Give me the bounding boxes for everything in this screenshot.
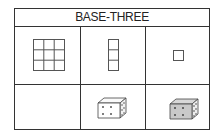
die-gray-icon [169, 98, 199, 120]
table-title: BASE-THREE [15, 9, 209, 27]
column-3-squares-icon [108, 39, 119, 71]
base-three-table: BASE-THREE [14, 8, 210, 130]
square-3x3-grid-icon [33, 39, 65, 71]
single-square-icon [173, 50, 184, 61]
die-white-icon [97, 97, 127, 119]
column-divider [145, 26, 146, 129]
column-divider [80, 26, 81, 129]
row-divider [15, 84, 209, 85]
